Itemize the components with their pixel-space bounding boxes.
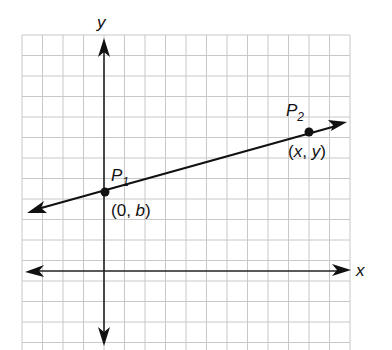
point-p1 xyxy=(101,188,110,197)
line-arrow-right-icon xyxy=(328,120,347,131)
grid xyxy=(22,35,350,350)
x-axis-arrow-right-icon xyxy=(332,264,351,276)
x-axis xyxy=(25,264,351,277)
y-axis-label: y xyxy=(96,13,107,32)
point-p2 xyxy=(305,128,314,137)
coordinate-plane: y x P1 (0, b) P2 (x, y) xyxy=(0,0,392,350)
point-p2-coords: (x, y) xyxy=(288,142,326,161)
x-axis-label: x xyxy=(355,261,365,280)
point-p1-coords: (0, b) xyxy=(111,201,151,220)
